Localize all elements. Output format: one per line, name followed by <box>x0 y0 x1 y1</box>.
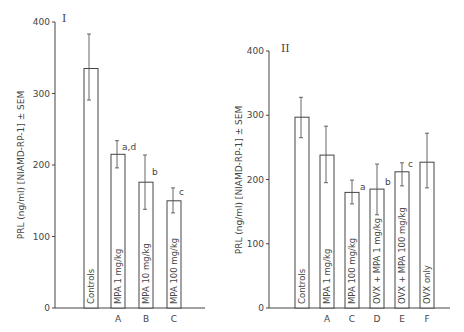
y-tick-300: 300 <box>247 110 264 120</box>
sig-label-b: b <box>385 177 391 187</box>
y-tick-0: 0 <box>258 303 264 313</box>
bar-label-mpa-100: MPA 100 mg/kg <box>169 238 179 304</box>
y-tick-300: 300 <box>33 89 50 99</box>
sig-label-b: b <box>152 167 158 177</box>
figure: PRL (ng/ml) [NIAMD-RP-1] ± SEM 0 100 200… <box>0 0 464 332</box>
group-letter-d: D <box>374 314 381 324</box>
y-axis-label-right: PRL (ng/ml) [NIAMD-RP-1] ± SEM <box>234 106 244 255</box>
sig-label-c: c <box>179 187 184 197</box>
bar-label-mpa-10: MPA 10 mg/kg <box>141 243 151 304</box>
bar-label-ovx-only: OVX only <box>422 265 432 304</box>
bar-label-ovx-mpa-1: OVX + MPA 1 mg/kg <box>372 218 382 304</box>
y-axis-label-left: PRL (ng/ml) [NIAMD-RP-1] ± SEM <box>16 91 26 240</box>
bar-label-mpa-1: MPA 1 mg/kg <box>322 249 332 304</box>
y-tick-100: 100 <box>247 239 264 249</box>
y-tick-400: 400 <box>33 17 50 27</box>
y-tick-200: 200 <box>33 160 50 170</box>
group-letter-a: A <box>324 314 331 324</box>
group-letter-c: C <box>349 314 355 324</box>
group-letter-c: C <box>171 314 177 324</box>
sig-label-c: c <box>408 159 413 169</box>
y-tick-200: 200 <box>247 175 264 185</box>
panel-ii: PRL (ng/ml) [NIAMD-RP-1] ± SEM 0 100 200… <box>234 42 450 324</box>
group-letter-f: F <box>424 314 429 324</box>
bar-label-mpa-1: MPA 1 mg/kg <box>113 249 123 304</box>
panel-numeral-ii: II <box>281 42 290 55</box>
group-letter-b: B <box>143 314 149 324</box>
sig-label-a: a,d <box>122 142 136 152</box>
group-letter-e: E <box>399 314 405 324</box>
y-tick-400: 400 <box>247 46 264 56</box>
bar-label-mpa-100: MPA 100 mg/kg <box>347 238 357 304</box>
y-tick-0: 0 <box>44 303 50 313</box>
sig-label-a: a <box>360 182 366 192</box>
bar-label-controls: Controls <box>86 268 96 304</box>
bar-label-controls: Controls <box>297 268 307 304</box>
panel-i: PRL (ng/ml) [NIAMD-RP-1] ± SEM 0 100 200… <box>16 12 205 324</box>
panel-numeral-i: I <box>62 12 66 25</box>
bar-label-ovx-mpa-100: OVX + MPA 100 mg/kg <box>397 207 407 304</box>
y-tick-100: 100 <box>33 232 50 242</box>
group-letter-a: A <box>115 314 122 324</box>
